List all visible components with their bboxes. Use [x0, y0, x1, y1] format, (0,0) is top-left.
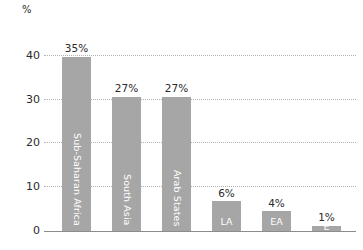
- bar-arab-states: Arab States: [162, 97, 191, 231]
- y-tick-label: 30: [10, 93, 40, 104]
- bar-value-label: 6%: [212, 188, 241, 199]
- bar-la: LA: [212, 201, 241, 231]
- plot-area: Sub-Saharan Africa 35% South Asia 27% Ar…: [44, 22, 356, 231]
- y-tick-label: 40: [10, 50, 40, 61]
- bar-category-label: South Asia: [122, 174, 132, 226]
- y-tick-label: 20: [10, 137, 40, 148]
- y-tick-label: 10: [10, 180, 40, 191]
- x-axis-baseline: [44, 231, 356, 232]
- bar-category-label: LA: [212, 217, 241, 227]
- y-axis-unit-label: %: [22, 4, 32, 15]
- bar-value-label: 27%: [112, 83, 141, 94]
- bar-sub-saharan-africa: Sub-Saharan Africa: [62, 57, 91, 231]
- bar-value-label: 4%: [262, 198, 291, 209]
- bar-value-label: 27%: [162, 83, 191, 94]
- y-tick-label: 0: [10, 224, 40, 235]
- bar-ea: EA: [262, 211, 291, 231]
- bar-category-label: Arab States: [172, 170, 182, 226]
- bar-category-label: Sub-Saharan Africa: [72, 133, 82, 226]
- bar-value-label: 35%: [62, 43, 91, 54]
- bar-south-asia: South Asia: [112, 97, 141, 231]
- bar-value-label: 1%: [312, 212, 341, 223]
- bar-chart: % 40 30 20 10 0 Sub-Saharan Africa 35% S…: [0, 0, 363, 250]
- bar-category-label: EA: [262, 217, 291, 227]
- y-axis-tick-labels: 40 30 20 10 0: [6, 22, 40, 231]
